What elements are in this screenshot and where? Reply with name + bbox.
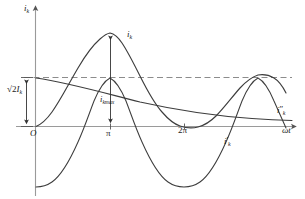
ikmax-label: ikmax xyxy=(100,95,114,104)
x-tick-label-2pi: 2π xyxy=(178,126,187,135)
curve-periodic-ac-component xyxy=(36,78,286,187)
periodic-component-curve-label: i′k xyxy=(224,137,231,146)
sqrt2ik-amplitude-label: √2Ik xyxy=(7,85,22,94)
plot-canvas xyxy=(0,0,305,199)
x-tick-label-pi: π xyxy=(106,129,111,138)
origin-label: O xyxy=(30,129,37,138)
y-axis-label: ik xyxy=(24,4,29,13)
short-circuit-current-waveform-figure: ik √2Ik ik ikmax O π 2π i″k i′k ωt xyxy=(0,0,305,199)
curve-total-short-circuit-current xyxy=(36,33,286,128)
decaying-component-curve-label: i″k xyxy=(277,106,285,115)
x-axis-label: ωt xyxy=(282,126,291,135)
total-current-curve-label: ik xyxy=(127,30,132,39)
